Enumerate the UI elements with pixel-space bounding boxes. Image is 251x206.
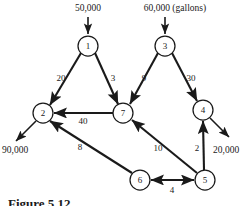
demand-arrow-node-2 bbox=[16, 121, 36, 141]
node-label-4: 4 bbox=[201, 105, 206, 115]
node-label-2: 2 bbox=[41, 108, 46, 118]
edge-weight-3-7: 9 bbox=[142, 73, 147, 83]
edge-weight-1-2: 20 bbox=[57, 73, 67, 83]
external-supply-arrows bbox=[88, 17, 165, 34]
node-label-6: 6 bbox=[138, 175, 143, 185]
edge-6-to-2 bbox=[50, 121, 132, 173]
edge-5-to-7 bbox=[132, 120, 197, 173]
edge-weight-5-7: 10 bbox=[154, 143, 164, 153]
node-label-5: 5 bbox=[203, 175, 208, 185]
node-label-3: 3 bbox=[163, 41, 168, 51]
node-label-7: 7 bbox=[121, 108, 126, 118]
edge-weight-5-4: 2 bbox=[195, 143, 200, 153]
network-flow-diagram: 1 2 3 4 5 6 7 20 3 9 30 40 8 10 2 4 50,0… bbox=[0, 0, 251, 206]
edge-weight-1-7: 3 bbox=[111, 73, 116, 83]
edge-1-to-2 bbox=[50, 53, 81, 105]
edge-5-to-4 bbox=[203, 121, 204, 170]
edge-weight-6-5: 4 bbox=[170, 185, 175, 195]
demand-label-node-2: 90,000 bbox=[2, 145, 28, 155]
supply-label-node-1: 50,000 bbox=[75, 3, 101, 13]
supply-label-node-3: 60,000 (gallons) bbox=[144, 3, 206, 14]
edge-weight-6-2: 8 bbox=[78, 142, 83, 152]
node-label-1: 1 bbox=[86, 41, 91, 51]
edge-weight-group: 20 3 9 30 40 8 10 2 4 bbox=[57, 73, 200, 195]
demand-label-node-4: 20,000 bbox=[213, 145, 239, 155]
edge-weight-7-2: 40 bbox=[79, 116, 89, 126]
figure-caption: Figure 5.12 bbox=[8, 196, 71, 206]
edge-weight-3-4: 30 bbox=[187, 73, 197, 83]
figure-container: 1 2 3 4 5 6 7 20 3 9 30 40 8 10 2 4 50,0… bbox=[0, 0, 251, 206]
demand-arrow-node-4 bbox=[210, 118, 229, 137]
